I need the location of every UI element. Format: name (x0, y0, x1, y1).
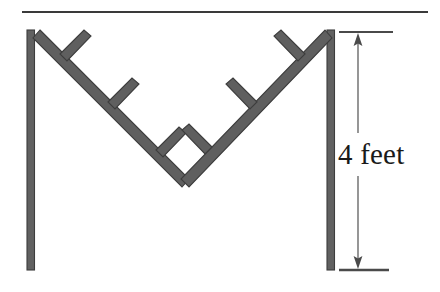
right-branch-2 (226, 78, 257, 109)
right-post (327, 30, 335, 270)
left-post (27, 30, 35, 270)
right-branch-1 (274, 30, 305, 61)
left-branch-2 (108, 78, 139, 109)
dimension-label: 4 feet (338, 133, 434, 175)
dimension-line-upper (354, 33, 363, 133)
left-branch-group (60, 30, 186, 157)
left-branch-3 (156, 127, 186, 157)
right-branch-3 (182, 124, 212, 154)
dimension-line-lower (354, 176, 363, 269)
vee-beam (33, 30, 332, 187)
vee-left-arm (33, 30, 189, 187)
left-branch-1 (60, 30, 91, 61)
trellis-dimension-figure: 4 feet (0, 0, 440, 292)
right-branch-group (182, 30, 305, 154)
vee-right-arm (181, 30, 332, 187)
